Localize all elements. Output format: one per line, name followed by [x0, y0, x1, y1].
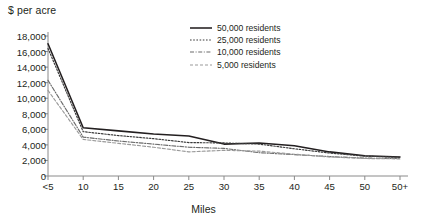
- legend-item[interactable]: 25,000 residents: [190, 34, 281, 46]
- chart-figure: $ per acre 02,0004,0006,0008,00010,00012…: [0, 0, 421, 224]
- legend-label: 5,000 residents: [217, 59, 276, 71]
- x-axis-title-text: Miles: [191, 203, 216, 215]
- y-axis-tick-label: 18,000: [17, 31, 46, 42]
- x-axis-tick-label: 45: [324, 181, 335, 192]
- legend-swatch-icon: [190, 24, 212, 32]
- x-axis-tick-label: 50: [359, 181, 370, 192]
- legend-item[interactable]: 5,000 residents: [190, 59, 281, 71]
- legend-label: 50,000 residents: [217, 22, 281, 34]
- chart-legend: 50,000 residents25,000 residents10,000 r…: [190, 22, 281, 71]
- x-axis-tick-label: 25: [183, 181, 194, 192]
- x-axis-tick-label: 15: [113, 181, 124, 192]
- x-axis-tick-label: 50+: [392, 181, 408, 192]
- legend-label: 25,000 residents: [217, 34, 281, 46]
- y-axis-tick-label: 6,000: [22, 124, 46, 135]
- x-axis-tick-label: 10: [78, 181, 89, 192]
- y-axis-tick-label: 4,000: [22, 139, 46, 150]
- legend-item[interactable]: 50,000 residents: [190, 22, 281, 34]
- y-axis-tick-label: 8,000: [22, 108, 46, 119]
- legend-label: 10,000 residents: [217, 46, 281, 58]
- y-axis-tick-label: 2,000: [22, 155, 46, 166]
- y-axis-tick-label: 0: [41, 171, 46, 182]
- x-axis-title: Miles: [0, 203, 421, 215]
- legend-swatch-icon: [190, 61, 212, 69]
- legend-swatch-icon: [190, 48, 212, 56]
- y-axis-tick-label: 14,000: [17, 62, 46, 73]
- legend-item[interactable]: 10,000 residents: [190, 46, 281, 58]
- x-axis-tick-label: 35: [254, 181, 265, 192]
- y-axis-tick-label: 10,000: [17, 93, 46, 104]
- x-axis-tick-label: 40: [289, 181, 300, 192]
- y-axis-tick-label: 16,000: [17, 46, 46, 57]
- y-axis-tick-label: 12,000: [17, 77, 46, 88]
- x-axis-tick-label: 20: [148, 181, 159, 192]
- y-axis-tick-labels: 02,0004,0006,0008,00010,00012,00014,0001…: [0, 0, 46, 224]
- x-axis-tick-label: <5: [43, 181, 54, 192]
- x-axis-tick-label: 30: [219, 181, 230, 192]
- legend-swatch-icon: [190, 36, 212, 44]
- series-line-3: [48, 80, 400, 158]
